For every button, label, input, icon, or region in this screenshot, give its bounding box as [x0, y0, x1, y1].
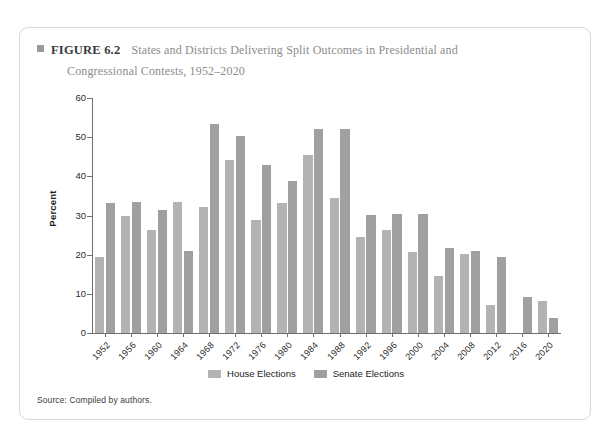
bar-house-1952	[95, 257, 104, 333]
bar-group	[512, 98, 532, 333]
bar-group	[225, 98, 245, 333]
bar-group	[199, 98, 219, 333]
x-tick-mark	[261, 333, 262, 337]
bar-house-2008	[460, 254, 469, 333]
x-tick-mark	[131, 333, 132, 337]
x-tick-mark	[366, 333, 367, 337]
legend-label: Senate Elections	[333, 368, 404, 379]
bar-senate-1960	[158, 210, 167, 333]
bar-group	[408, 98, 428, 333]
bar-house-1972	[225, 160, 234, 334]
bar-group	[277, 98, 297, 333]
bar-senate-2012	[497, 257, 506, 333]
bar-group	[460, 98, 480, 333]
y-tick-label: 60	[50, 93, 86, 103]
bar-group	[330, 98, 350, 333]
x-tick-mark	[157, 333, 158, 337]
x-tick-mark	[287, 333, 288, 337]
x-tick-mark	[470, 333, 471, 337]
bar-senate-1964	[184, 251, 193, 333]
x-tick-mark	[183, 333, 184, 337]
bar-group	[303, 98, 323, 333]
bar-house-1968	[199, 207, 208, 334]
y-tick-label: 0	[50, 328, 86, 338]
bar-house-2020	[538, 301, 547, 334]
figure-card: FIGURE 6.2States and Districts Deliverin…	[19, 27, 591, 420]
chart-plot-area: Percent 0102030405060 195219561960196419…	[20, 28, 592, 421]
x-tick-mark	[235, 333, 236, 337]
x-tick-mark	[522, 333, 523, 337]
x-tick-mark	[313, 333, 314, 337]
x-tick-mark	[444, 333, 445, 337]
bar-house-1984	[303, 155, 312, 333]
bar-group	[434, 98, 454, 333]
y-tick-label: 10	[50, 289, 86, 299]
bar-group	[356, 98, 376, 333]
x-tick-mark	[496, 333, 497, 337]
legend-swatch-icon	[314, 370, 327, 378]
bar-senate-1980	[288, 181, 297, 333]
bar-senate-1952	[106, 203, 115, 333]
bar-house-1992	[356, 237, 365, 333]
bar-senate-1996	[392, 214, 401, 333]
bar-senate-1968	[210, 124, 219, 333]
bar-senate-1992	[366, 215, 375, 333]
y-tick-mark	[87, 333, 92, 334]
bar-house-1988	[330, 198, 339, 333]
bar-house-2000	[408, 252, 417, 333]
y-tick-label: 20	[50, 250, 86, 260]
bar-group	[486, 98, 506, 333]
bar-senate-1984	[314, 129, 323, 333]
y-tick-label: 50	[50, 132, 86, 142]
bars-layer	[92, 98, 561, 333]
bar-senate-1956	[132, 202, 141, 333]
bar-group	[538, 98, 558, 333]
bar-senate-1988	[340, 129, 349, 333]
legend-item-senate[interactable]: Senate Elections	[314, 368, 404, 379]
bar-house-1964	[173, 202, 182, 333]
chart-legend: House ElectionsSenate Elections	[20, 368, 592, 379]
bar-house-1996	[382, 230, 391, 333]
bar-house-2004	[434, 276, 443, 333]
bar-senate-2008	[471, 251, 480, 333]
x-axis-line	[92, 333, 561, 334]
x-tick-mark	[209, 333, 210, 337]
x-tick-mark	[105, 333, 106, 337]
bar-senate-1972	[236, 136, 245, 333]
bar-group	[95, 98, 115, 333]
bar-senate-1976	[262, 165, 271, 333]
bar-senate-2004	[445, 248, 454, 333]
bar-senate-2000	[418, 214, 427, 333]
figure-source: Source: Compiled by authors.	[37, 395, 152, 405]
bar-senate-2020	[549, 318, 558, 333]
x-tick-mark	[392, 333, 393, 337]
bar-group	[173, 98, 193, 333]
x-tick-label-1992: 1992	[323, 340, 372, 389]
bar-group	[382, 98, 402, 333]
bar-house-1960	[147, 230, 156, 333]
legend-item-house[interactable]: House Elections	[208, 368, 296, 379]
bar-group	[121, 98, 141, 333]
bar-house-1980	[277, 203, 286, 333]
y-tick-label: 30	[50, 211, 86, 221]
bar-house-1976	[251, 220, 260, 333]
legend-label: House Elections	[227, 368, 296, 379]
bar-senate-2016	[523, 297, 532, 333]
bar-house-1956	[121, 216, 130, 334]
y-tick-label: 40	[50, 171, 86, 181]
bar-group	[251, 98, 271, 333]
x-tick-mark	[548, 333, 549, 337]
bar-house-2012	[486, 305, 495, 333]
x-tick-mark	[340, 333, 341, 337]
legend-swatch-icon	[208, 370, 221, 378]
x-tick-mark	[418, 333, 419, 337]
bar-group	[147, 98, 167, 333]
